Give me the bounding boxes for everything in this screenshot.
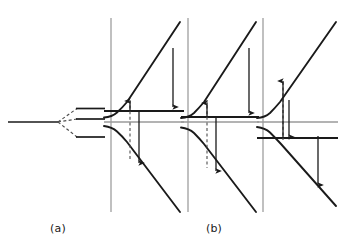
figure-background xyxy=(0,0,344,251)
figure-root: (a) (b) xyxy=(0,0,344,251)
panel-b-label: (b) xyxy=(206,222,222,235)
energy-level-diagram: (a) (b) xyxy=(0,0,344,251)
panel-a-label: (a) xyxy=(50,222,66,235)
